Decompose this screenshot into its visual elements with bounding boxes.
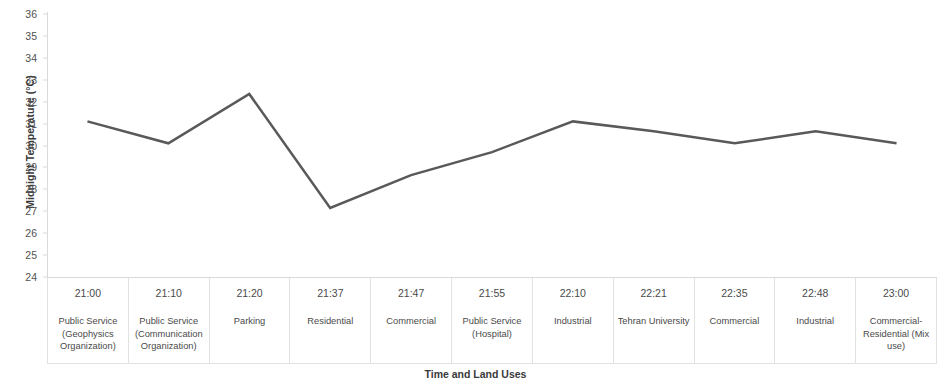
category-landuse-label: Industrial (794, 315, 836, 328)
category-landuse-label: Public Service (Hospital) (452, 315, 532, 340)
category-time-label: 23:00 (883, 287, 909, 300)
x-axis-category-column: 22:21Tehran University (614, 278, 695, 363)
y-axis-tick-31: 31 (7, 118, 37, 130)
category-time-label: 21:47 (398, 287, 424, 300)
x-axis-category-column: 21:10Public Service (Communication Organ… (129, 278, 210, 363)
x-axis-title: Time and Land Uses (0, 368, 951, 380)
y-axis-tick-28: 28 (7, 183, 37, 195)
category-time-label: 21:55 (479, 287, 505, 300)
category-landuse-label: Tehran University (616, 315, 692, 328)
x-axis-category-column: 22:10Industrial (533, 278, 614, 363)
category-time-label: 21:37 (317, 287, 343, 300)
y-axis-tick-35: 35 (7, 30, 37, 42)
x-axis-category-column: 22:48Industrial (775, 278, 856, 363)
x-axis-category-column: 21:55Public Service (Hospital) (452, 278, 533, 363)
x-axis-category-column: 22:35Commercial (695, 278, 776, 363)
category-landuse-label: Residential (305, 315, 355, 328)
y-axis-tick-30: 30 (7, 140, 37, 152)
temperature-series (47, 14, 937, 277)
category-landuse-label: Commercial (708, 315, 762, 328)
x-axis-category-column: 21:37Residential (290, 278, 371, 363)
x-axis-category-column: 21:00Public Service (Geophysics Organiza… (48, 278, 129, 363)
x-axis-category-column: 21:47Commercial (371, 278, 452, 363)
x-axis-category-table: 21:00Public Service (Geophysics Organiza… (47, 278, 937, 364)
x-axis-category-column: 23:00Commercial-Residential (Mix use) (856, 278, 937, 363)
category-time-label: 22:48 (802, 287, 828, 300)
category-time-label: 22:10 (560, 287, 586, 300)
y-axis-tick-25: 25 (7, 249, 37, 261)
y-axis-tick-26: 26 (7, 227, 37, 239)
category-landuse-label: Commercial-Residential (Mix use) (856, 315, 936, 353)
x-axis-category-column: 21:20Parking (210, 278, 291, 363)
category-time-label: 21:20 (236, 287, 262, 300)
y-axis-tick-29: 29 (7, 161, 37, 173)
y-axis-tick-27: 27 (7, 205, 37, 217)
category-time-label: 22:21 (640, 287, 666, 300)
y-axis-tick-24: 24 (7, 271, 37, 283)
category-time-label: 21:10 (156, 287, 182, 300)
category-landuse-label: Public Service (Communication Organizati… (129, 315, 209, 353)
category-landuse-label: Industrial (552, 315, 594, 328)
category-landuse-label: Public Service (Geophysics Organization) (48, 315, 128, 353)
y-axis-tick-34: 34 (7, 52, 37, 64)
y-axis-tick-labels: 24252627282930313233343536 (0, 0, 44, 384)
plot-area (47, 14, 937, 277)
category-landuse-label: Parking (232, 315, 268, 328)
y-axis-tick-32: 32 (7, 96, 37, 108)
category-time-label: 22:35 (721, 287, 747, 300)
line-chart: Midnight Temperature (°C) 24252627282930… (0, 0, 951, 384)
y-axis-tick-33: 33 (7, 74, 37, 86)
y-axis-tick-36: 36 (7, 8, 37, 20)
category-time-label: 21:00 (75, 287, 101, 300)
category-landuse-label: Commercial (384, 315, 438, 328)
